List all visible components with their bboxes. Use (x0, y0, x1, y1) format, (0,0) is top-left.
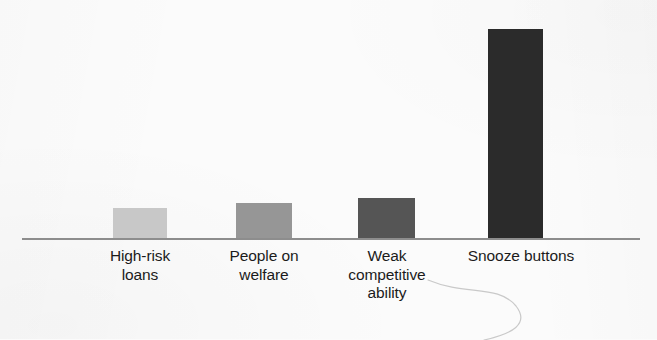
x-axis-baseline (22, 238, 640, 240)
category-label-people-on-welfare: People on welfare (209, 247, 319, 284)
category-label-snooze-buttons: Snooze buttons (446, 247, 596, 266)
category-label-weak-competitive-ability: Weak competitive ability (331, 247, 443, 303)
scan-artifact-curve (420, 262, 590, 340)
bar-snooze-buttons (488, 29, 543, 238)
bar-high-risk-loans (113, 208, 167, 238)
category-label-high-risk-loans: High-risk loans (85, 247, 195, 284)
bar-people-on-welfare (236, 203, 292, 238)
bar-weak-competitive-ability (358, 198, 415, 238)
